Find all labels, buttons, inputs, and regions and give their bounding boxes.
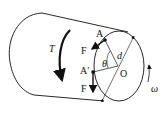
cylinder-back-edge: [9, 13, 42, 95]
angular-velocity-label: ω: [151, 84, 158, 94]
center-label: O: [120, 69, 127, 79]
point-a-prime-label: A′: [80, 66, 89, 76]
cylinder-bottom-edge: [34, 95, 104, 101]
angle-arc: [107, 51, 110, 68]
point-a-label: A: [96, 29, 103, 39]
force-arrow-top: [92, 40, 105, 49]
cylinder-diagram: T F F A A′ θ d O ω: [0, 0, 168, 113]
force-top-label: F: [81, 46, 87, 56]
torque-label: T: [49, 44, 55, 54]
torque-arrow: [60, 30, 70, 80]
angle-label: θ: [102, 59, 107, 69]
diameter-label: d: [117, 51, 122, 61]
diagram-graphic: [0, 0, 168, 113]
cylinder-top-edge: [42, 13, 128, 32]
force-bottom-label: F: [81, 84, 87, 94]
angular-velocity-arrow: [148, 65, 149, 82]
